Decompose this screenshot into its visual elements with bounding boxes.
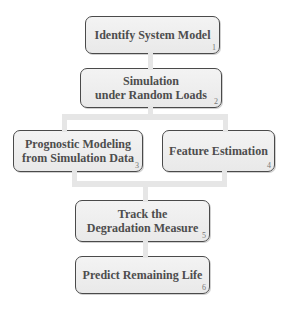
node-number: 4 [267,162,271,170]
node-number: 5 [202,232,206,240]
node-identify-system-model: Identify System Model 1 [85,16,220,54]
node-predict-remaining-life: Predict Remaining Life 6 [75,256,210,294]
connector-merge-bar [72,181,227,187]
node-track-degradation-measure: Track the Degradation Measure 5 [75,200,210,242]
node-feature-estimation: Feature Estimation 4 [162,130,275,172]
node-label: Identify System Model [91,28,215,42]
node-number: 1 [212,44,216,52]
connector-split-bar [62,114,228,120]
node-label: Prognostic Modeling from Simulation Data [18,137,138,165]
node-label: Feature Estimation [165,144,272,158]
node-label: Predict Remaining Life [79,268,207,282]
node-number: 3 [135,162,139,170]
node-label: Track the Degradation Measure [83,207,202,235]
node-simulation-random-loads: Simulation under Random Loads 2 [80,68,222,108]
node-number: 6 [202,284,206,292]
node-prognostic-modeling: Prognostic Modeling from Simulation Data… [13,130,143,172]
node-number: 2 [214,98,218,106]
node-label: Simulation under Random Loads [91,74,211,102]
